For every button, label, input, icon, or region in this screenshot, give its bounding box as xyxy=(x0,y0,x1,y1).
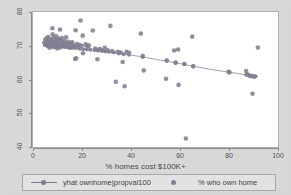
legend-label-yhat: yhat ownhome|propval100 xyxy=(63,178,151,187)
data-point xyxy=(74,56,79,61)
x-tick-label: 20 xyxy=(72,152,92,159)
data-point xyxy=(64,35,69,40)
fit-line-point xyxy=(63,45,67,49)
figure-canvas: 4050607080 020406080100 % homes cost $10… xyxy=(0,0,291,195)
data-point xyxy=(190,34,195,39)
fit-line-point xyxy=(191,64,195,68)
data-point xyxy=(81,51,86,56)
fit-line-point xyxy=(253,74,257,78)
legend-item-ownhome[interactable]: % who own home xyxy=(171,175,257,190)
legend-label-ownhome: % who own home xyxy=(198,178,257,187)
data-point xyxy=(176,47,181,52)
fit-line-point xyxy=(67,45,71,49)
figure-inner-background: 4050607080 020406080100 % homes cost $10… xyxy=(2,2,289,193)
data-point xyxy=(256,45,261,50)
y-tick-label: 80 xyxy=(16,5,23,19)
data-point xyxy=(50,26,55,31)
x-tick-label: 80 xyxy=(219,152,239,159)
data-point xyxy=(73,28,78,33)
y-tick-label: 60 xyxy=(16,72,23,86)
x-axis-title: % homes cost $100K+ xyxy=(2,162,289,171)
fit-line-point xyxy=(112,51,116,55)
y-tick-label: 50 xyxy=(16,106,23,120)
fit-line-point xyxy=(122,52,126,56)
plot-area xyxy=(32,11,279,148)
fit-line-point xyxy=(100,49,104,53)
fit-line-point xyxy=(52,44,56,48)
fit-line-point xyxy=(107,50,111,54)
data-point xyxy=(184,136,189,141)
data-point xyxy=(80,33,85,38)
fit-line-point xyxy=(244,73,248,77)
data-point xyxy=(90,28,95,33)
data-point xyxy=(176,83,181,88)
legend-item-yhat[interactable]: yhat ownhome|propval100 xyxy=(31,175,151,190)
data-point xyxy=(58,27,63,32)
data-point xyxy=(78,18,83,23)
legend-dot-icon-2 xyxy=(171,180,176,185)
x-tick-mark xyxy=(278,148,279,151)
fit-line-point xyxy=(165,59,169,63)
chart-legend: yhat ownhome|propval100 % who own home xyxy=(22,174,276,191)
scatter-plot-svg xyxy=(33,12,278,147)
fit-line-point xyxy=(96,48,100,52)
x-tick-label: 0 xyxy=(23,152,43,159)
fit-line-point xyxy=(117,52,121,56)
legend-dot-icon xyxy=(41,180,46,185)
fit-line-point xyxy=(74,46,78,50)
data-point xyxy=(122,84,127,89)
fit-line-point xyxy=(56,44,60,48)
fit-line-point xyxy=(141,55,145,59)
data-point xyxy=(172,48,177,53)
data-point xyxy=(108,24,113,29)
fit-line-point xyxy=(127,53,131,57)
data-point xyxy=(95,57,100,62)
fit-line-point xyxy=(174,61,178,65)
data-point xyxy=(141,68,146,73)
x-axis-spine xyxy=(33,148,278,149)
fit-line-point xyxy=(89,48,93,52)
fit-line-point xyxy=(182,62,186,66)
data-point xyxy=(164,77,169,82)
data-point xyxy=(139,31,144,36)
y-tick-mark xyxy=(29,147,32,148)
data-point xyxy=(120,60,125,65)
data-point xyxy=(87,43,92,48)
fit-line-point xyxy=(103,49,107,53)
x-tick-label: 40 xyxy=(121,152,141,159)
data-point xyxy=(250,91,255,96)
fit-line-point xyxy=(81,47,85,51)
x-tick-label: 100 xyxy=(268,152,288,159)
data-point xyxy=(114,80,119,85)
fit-line-point xyxy=(70,46,74,50)
y-tick-label: 40 xyxy=(16,140,23,154)
x-tick-label: 60 xyxy=(170,152,190,159)
fit-line-point xyxy=(78,47,82,51)
fit-line-point xyxy=(59,45,63,49)
y-axis-spine xyxy=(31,12,32,147)
y-tick-label: 70 xyxy=(16,38,23,52)
legend-line-marker xyxy=(31,182,57,183)
fit-line-point xyxy=(85,47,89,51)
fit-line-point xyxy=(227,70,231,74)
